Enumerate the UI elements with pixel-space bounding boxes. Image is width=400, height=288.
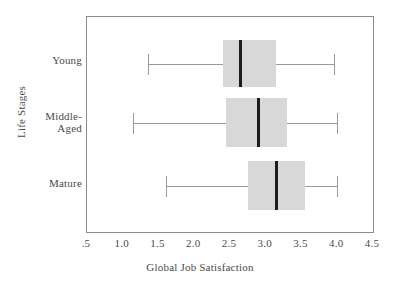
whisker-line-mature-low (166, 186, 248, 187)
median-mature (275, 161, 278, 210)
x-tick-label-1: 1.0 (102, 237, 142, 249)
category-label-middle-aged-line1: Middle- (0, 110, 82, 122)
median-young (239, 40, 242, 87)
category-label-young: Young (0, 54, 82, 66)
whisker-line-middle-aged-high (287, 123, 337, 124)
whisker-line-young-low (148, 64, 223, 65)
whisker-cap-middle-aged-high (337, 113, 338, 134)
whisker-line-mature-high (305, 186, 337, 187)
whisker-cap-middle-aged-low (133, 113, 134, 134)
boxplot-figure: Life Stages Young Middle- Aged Mature (0, 0, 400, 288)
x-tick-label-8: 4.5 (352, 237, 392, 249)
category-label-middle-aged-line2: Aged (0, 122, 82, 134)
x-tick-label-5: 3.0 (245, 237, 285, 249)
category-label-mature: Mature (0, 177, 82, 189)
whisker-cap-young-low (148, 54, 149, 75)
plot-area (86, 16, 374, 233)
whisker-cap-young-high (334, 54, 335, 75)
category-label-mature-text: Mature (0, 177, 82, 189)
x-tick-label-7: 4.0 (316, 237, 356, 249)
whisker-line-young-high (276, 64, 333, 65)
median-middle-aged (257, 98, 260, 147)
box-young (223, 40, 277, 87)
whisker-cap-mature-low (166, 176, 167, 197)
whisker-cap-mature-high (337, 176, 338, 197)
x-tick-label-2: 1.5 (138, 237, 178, 249)
x-axis-title: Global Job Satisfaction (0, 261, 400, 273)
whisker-line-middle-aged-low (133, 123, 226, 124)
x-tick-label-4: 2.5 (209, 237, 249, 249)
x-tick-label-0: .5 (66, 237, 106, 249)
x-tick-label-3: 2.0 (173, 237, 213, 249)
category-label-middle-aged: Middle- Aged (0, 110, 82, 134)
x-tick-label-6: 3.5 (281, 237, 321, 249)
category-label-young-text: Young (0, 54, 82, 66)
